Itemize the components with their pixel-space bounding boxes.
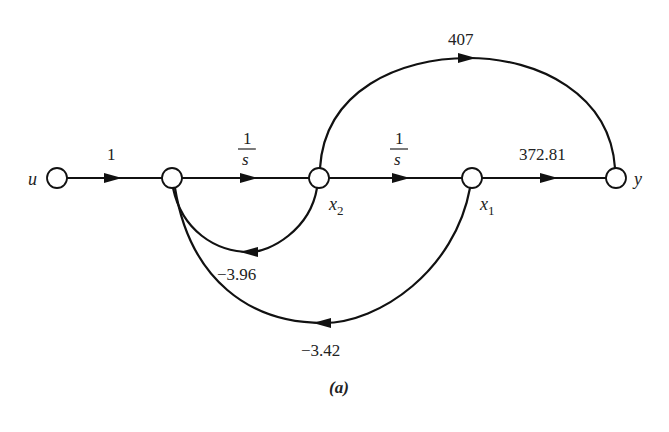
gain-num-x2-x1: 1: [395, 129, 404, 148]
node-label-x1: x1: [479, 194, 495, 218]
gain-den-n1-x2: s: [242, 150, 249, 169]
node-x2: [309, 168, 329, 188]
branch-x1-to-n1: [175, 188, 470, 328]
gain-label-x2-y: 407: [448, 30, 474, 49]
branch-x2-to-x1: [329, 173, 462, 183]
node-label-x2: x2: [328, 194, 344, 218]
gain-label-u-n1: 1: [107, 145, 116, 164]
gain-label-x1-y: 372.81: [519, 145, 566, 164]
figure-caption: (a): [329, 378, 349, 397]
node-y: [606, 168, 626, 188]
node-u: [47, 168, 67, 188]
node-label-u: u: [28, 169, 37, 189]
branch-x1-to-y: [482, 173, 606, 183]
branch-u-to-n1: [67, 173, 162, 183]
node-n1: [162, 168, 182, 188]
gain-label-x1-n1: −3.42: [301, 341, 340, 360]
node-label-y: y: [632, 169, 642, 189]
gain-label-x2-n1: −3.96: [217, 265, 256, 284]
branch-x2-to-y: [320, 53, 615, 168]
signal-flow-graph: u x2 x1 y 1 1 s 1 s 372.81 407 −3.96 −3.…: [0, 0, 669, 432]
gain-den-x2-x1: s: [394, 150, 401, 169]
node-x1: [462, 168, 482, 188]
gain-num-n1-x2: 1: [243, 129, 252, 148]
branch-n1-to-x2: [182, 173, 309, 183]
